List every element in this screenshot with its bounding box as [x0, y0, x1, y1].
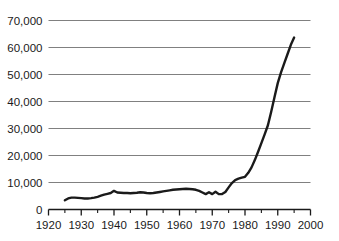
y-axis-tick-label: 60,000	[7, 42, 42, 54]
chart-canvas: 010,00020,00030,00040,00050,00060,00070,…	[0, 0, 339, 241]
x-axis-tick-label: 1990	[265, 219, 291, 231]
x-axis-ticks	[49, 210, 311, 216]
y-axis-tick-label: 50,000	[7, 69, 42, 81]
y-axis-tick-labels: 010,00020,00030,00040,00050,00060,00070,…	[7, 15, 42, 216]
x-axis-tick-label: 2000	[298, 219, 324, 231]
data-series-line	[65, 38, 294, 201]
y-axis-tick-label: 40,000	[7, 96, 42, 108]
series-line	[65, 38, 294, 201]
line-chart: 010,00020,00030,00040,00050,00060,00070,…	[0, 0, 339, 241]
y-axis-tick-label: 20,000	[7, 150, 42, 162]
x-axis-tick-label: 1960	[167, 219, 193, 231]
x-axis-tick-label: 1970	[199, 219, 225, 231]
y-axis-tick-label: 10,000	[7, 177, 42, 189]
x-axis-tick-label: 1940	[101, 219, 127, 231]
x-axis-tick-label: 1980	[232, 219, 258, 231]
x-axis-tick-label: 1920	[36, 219, 62, 231]
gridlines	[49, 21, 311, 183]
y-axis-tick-label: 30,000	[7, 123, 42, 135]
y-axis-tick-label: 0	[36, 204, 42, 216]
x-axis-tick-label: 1930	[68, 219, 94, 231]
x-axis-tick-labels: 192019301940195019601970198019902000	[36, 219, 324, 231]
x-axis-tick-label: 1950	[134, 219, 160, 231]
y-axis-tick-label: 70,000	[7, 15, 42, 27]
